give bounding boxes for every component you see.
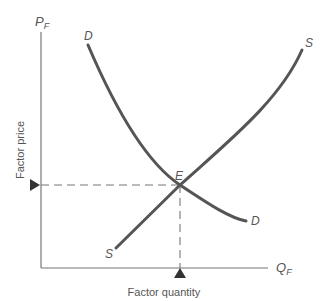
y-axis-title: Factor price xyxy=(14,121,26,179)
demand-curve xyxy=(88,45,246,221)
quantity-marker-triangle-icon xyxy=(174,268,186,278)
demand-label-top: D xyxy=(84,29,93,43)
supply-label-top: S xyxy=(305,36,313,50)
x-axis-title: Factor quantity xyxy=(128,286,201,298)
supply-label-bottom: S xyxy=(105,247,113,261)
price-marker-triangle-icon xyxy=(30,179,40,191)
supply-demand-chart: PF QF Factor price Factor quantity D D S… xyxy=(0,0,327,301)
x-axis-symbol: QF xyxy=(276,260,292,277)
demand-label-bottom: D xyxy=(251,214,260,228)
equilibrium-label: E xyxy=(175,169,184,183)
y-axis-symbol: PF xyxy=(35,14,50,31)
